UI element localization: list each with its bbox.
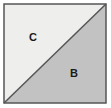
figure-container: C B (0, 0, 111, 108)
region-label-c: C (29, 31, 37, 43)
divided-square-diagram: C B (0, 0, 111, 108)
region-label-b: B (70, 67, 78, 79)
